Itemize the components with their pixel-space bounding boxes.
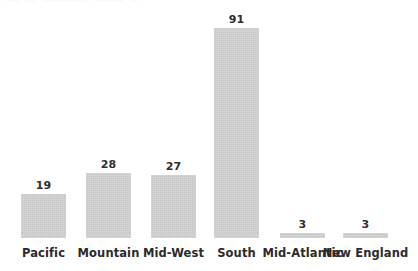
bar-group-new-england: 3 New England	[343, 0, 388, 271]
bar-pacific[interactable]	[21, 194, 66, 238]
bar-chart: 19 Pacific 28 Mountain 27 Mid-West 91 So…	[0, 0, 418, 271]
bar-mountain[interactable]	[86, 173, 131, 238]
bar-group-mid-west: 27 Mid-West	[151, 0, 196, 271]
bar-south[interactable]	[214, 28, 259, 238]
bar-group-south: 91 South	[214, 0, 259, 271]
bar-value-label: 3	[299, 219, 307, 231]
bar-group-pacific: 19 Pacific	[21, 0, 66, 271]
bar-value-label: 3	[362, 219, 370, 231]
bar-value-label: 19	[36, 180, 52, 192]
category-label-pacific: Pacific	[22, 246, 65, 260]
bar-mid-west[interactable]	[151, 175, 196, 238]
bar-mid-atlantic[interactable]	[280, 233, 325, 238]
category-label-mountain: Mountain	[78, 246, 140, 260]
bar-group-mid-atlantic: 3 Mid-Atlantic	[280, 0, 325, 271]
category-label-new-england: New England	[323, 246, 409, 260]
plot-area: 19 Pacific 28 Mountain 27 Mid-West 91 So…	[0, 0, 418, 271]
bar-value-label: 27	[166, 161, 182, 173]
category-label-mid-west: Mid-West	[143, 246, 204, 260]
bar-group-mountain: 28 Mountain	[86, 0, 131, 271]
bar-new-england[interactable]	[343, 233, 388, 238]
bar-value-label: 28	[101, 159, 117, 171]
category-label-south: South	[217, 246, 256, 260]
bar-value-label: 91	[229, 14, 245, 26]
